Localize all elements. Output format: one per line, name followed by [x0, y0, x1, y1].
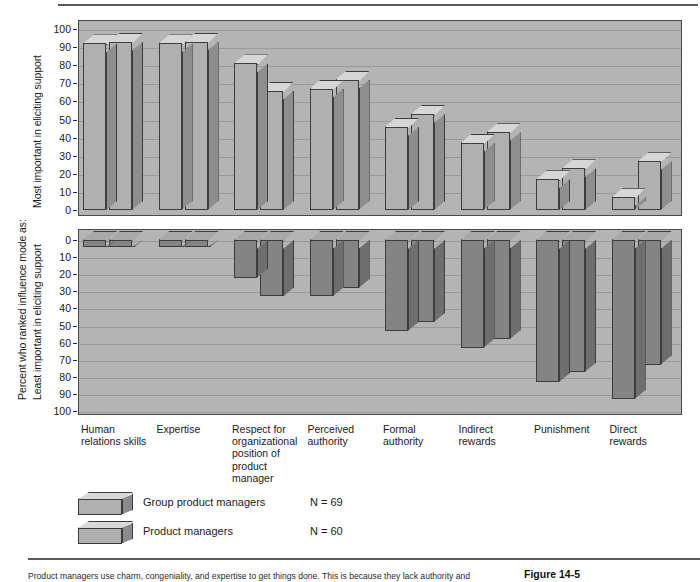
- bar-side: [283, 91, 294, 210]
- bar-group-product-managers: [159, 43, 182, 210]
- x-category-label: Punishment: [534, 423, 618, 435]
- bar-face: [310, 89, 333, 210]
- bar-face: [385, 240, 408, 331]
- bar-face: [83, 240, 106, 247]
- y-tick-mark: [73, 326, 77, 327]
- y-tick-mark: [73, 343, 77, 344]
- y-tick-label: 100: [45, 24, 71, 35]
- bar-side: [635, 240, 646, 399]
- bar-face: [310, 240, 333, 296]
- y-tick-mark: [73, 83, 77, 84]
- y-tick-label: 50: [45, 321, 71, 332]
- bar-face: [83, 43, 106, 210]
- bar-side: [484, 143, 495, 210]
- y-tick-mark: [73, 156, 77, 157]
- bar-side: [661, 240, 672, 365]
- bar-face: [536, 179, 559, 210]
- y-tick-label: 10: [45, 187, 71, 198]
- y-tick-mark: [73, 377, 77, 378]
- y-tick-label: 80: [45, 60, 71, 71]
- gridline: [79, 30, 681, 31]
- bar-group-product-managers: [234, 240, 257, 278]
- y-tick-mark: [73, 47, 77, 48]
- bar-face: [612, 197, 635, 210]
- bar-side: [208, 42, 219, 210]
- bar-face: [234, 240, 257, 278]
- bar-side: [484, 240, 495, 348]
- axis-main-label: Percent who ranked influence mode as:: [16, 219, 28, 400]
- bar-group-product-managers: [310, 240, 333, 296]
- bar-side: [408, 127, 419, 210]
- y-tick-label: 100: [45, 406, 71, 417]
- axis-top-label: Most important in eliciting support: [31, 55, 43, 208]
- y-tick-label: 80: [45, 372, 71, 383]
- y-tick-label: 70: [45, 355, 71, 366]
- y-tick-label: 0: [45, 205, 71, 216]
- bar-side: [182, 43, 193, 210]
- y-tick-mark: [73, 120, 77, 121]
- y-tick-mark: [73, 308, 77, 309]
- y-tick-mark: [73, 411, 77, 412]
- bar-side: [359, 80, 370, 210]
- bar-side: [434, 240, 445, 322]
- legend-n-0: N = 69: [310, 496, 343, 508]
- legend-n-1: N = 60: [310, 525, 343, 537]
- bar-side: [408, 240, 419, 331]
- bar-group-product-managers: [612, 197, 635, 210]
- y-tick-label: 90: [45, 389, 71, 400]
- legend-label-0: Group product managers: [143, 496, 265, 508]
- top-rule: [58, 4, 698, 6]
- bar-side: [559, 240, 570, 382]
- x-category-label: Expertise: [157, 423, 241, 435]
- y-tick-mark: [73, 192, 77, 193]
- legend-swatch-group-product-managers: [78, 492, 134, 516]
- y-tick-mark: [73, 174, 77, 175]
- bar-side: [257, 63, 268, 210]
- y-tick-mark: [73, 240, 77, 241]
- y-tick-label: 60: [45, 96, 71, 107]
- y-tick-mark: [73, 394, 77, 395]
- bar-group-product-managers: [310, 89, 333, 210]
- y-tick-mark: [73, 101, 77, 102]
- bar-side: [585, 240, 596, 372]
- bar-side: [510, 240, 521, 339]
- bar-side: [333, 89, 344, 210]
- y-tick-label: 30: [45, 151, 71, 162]
- bar-face: [612, 240, 635, 399]
- x-category-label: Perceived authority: [308, 423, 392, 447]
- bar-group-product-managers: [159, 240, 182, 247]
- bar-group-product-managers: [536, 240, 559, 382]
- bar-group-product-managers: [536, 179, 559, 210]
- y-tick-mark: [73, 360, 77, 361]
- figure-number: Figure 14-5: [524, 568, 580, 580]
- x-category-label: Formal authority: [383, 423, 467, 447]
- y-tick-mark: [73, 29, 77, 30]
- y-tick-mark: [73, 274, 77, 275]
- legend-swatch-face: [78, 528, 122, 544]
- bar-group-product-managers: [461, 240, 484, 348]
- figure-caption: Product managers use charm, congeniality…: [28, 571, 498, 582]
- y-tick-label: 20: [45, 169, 71, 180]
- bar-side: [132, 42, 143, 210]
- y-tick-label: 90: [45, 42, 71, 53]
- bar-face: [234, 63, 257, 210]
- bar-face: [385, 127, 408, 210]
- bar-face: [461, 240, 484, 348]
- y-tick-mark: [73, 210, 77, 211]
- y-tick-label: 10: [45, 252, 71, 263]
- y-tick-label: 20: [45, 269, 71, 280]
- bar-face: [536, 240, 559, 382]
- bar-group-product-managers: [612, 240, 635, 399]
- y-tick-label: 40: [45, 133, 71, 144]
- bar-face: [461, 143, 484, 210]
- bar-side: [333, 240, 344, 296]
- bar-side: [434, 114, 445, 210]
- x-category-label: Respect for organizational position of p…: [232, 423, 316, 484]
- bar-group-product-managers: [83, 240, 106, 247]
- bar-face: [159, 240, 182, 247]
- gridline: [79, 412, 681, 413]
- y-tick-label: 70: [45, 78, 71, 89]
- x-category-label: Indirect rewards: [459, 423, 543, 447]
- y-tick-label: 40: [45, 303, 71, 314]
